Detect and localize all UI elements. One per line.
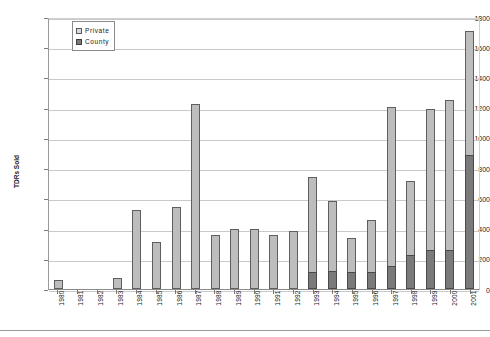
bar-segment-county-1998[interactable] bbox=[406, 255, 415, 289]
bar-stack-1985[interactable] bbox=[152, 242, 161, 289]
plot-area bbox=[48, 18, 480, 290]
bar-stack-1984[interactable] bbox=[132, 210, 141, 289]
bar-segment-private-1987[interactable] bbox=[191, 104, 200, 289]
bar-segment-private-1980[interactable] bbox=[54, 280, 63, 289]
x-label-holder-2001: 2001 bbox=[460, 296, 480, 328]
x-label-holder-1993: 1993 bbox=[303, 296, 323, 328]
bar-stack-1995[interactable] bbox=[347, 238, 356, 289]
bar-segment-private-1998[interactable] bbox=[406, 181, 415, 255]
bar-group-1989[interactable] bbox=[225, 19, 245, 289]
bar-group-1982[interactable] bbox=[88, 19, 108, 289]
bar-stack-1994[interactable] bbox=[328, 201, 337, 289]
bar-group-1992[interactable] bbox=[284, 19, 304, 289]
bar-segment-county-2000[interactable] bbox=[445, 250, 454, 289]
bar-group-1999[interactable] bbox=[420, 19, 440, 289]
bar-group-1998[interactable] bbox=[401, 19, 421, 289]
bar-group-1984[interactable] bbox=[127, 19, 147, 289]
x-axis-label-1986: 1986 bbox=[176, 290, 183, 305]
x-axis-label-1987: 1987 bbox=[195, 290, 202, 305]
bar-segment-private-1991[interactable] bbox=[269, 235, 278, 289]
x-axis-label-1996: 1996 bbox=[372, 290, 379, 305]
x-label-holder-1989: 1989 bbox=[225, 296, 245, 328]
bar-segment-county-2001[interactable] bbox=[465, 155, 474, 289]
x-label-holder-1996: 1996 bbox=[362, 296, 382, 328]
bar-group-1995[interactable] bbox=[342, 19, 362, 289]
bar-group-1994[interactable] bbox=[323, 19, 343, 289]
x-axis-label-1999: 1999 bbox=[431, 290, 438, 305]
bar-group-1987[interactable] bbox=[186, 19, 206, 289]
bar-stack-1983[interactable] bbox=[113, 278, 122, 289]
x-label-holder-1988: 1988 bbox=[205, 296, 225, 328]
bar-stack-1992[interactable] bbox=[289, 231, 298, 289]
bar-stack-1990[interactable] bbox=[250, 229, 259, 289]
x-label-holder-1992: 1992 bbox=[284, 296, 304, 328]
bar-segment-private-1993[interactable] bbox=[308, 177, 317, 271]
bar-stack-1986[interactable] bbox=[172, 207, 181, 289]
x-axis-label-1983: 1983 bbox=[117, 290, 124, 305]
bar-stack-1987[interactable] bbox=[191, 104, 200, 289]
bar-segment-private-1997[interactable] bbox=[387, 107, 396, 266]
bar-stack-1991[interactable] bbox=[269, 235, 278, 289]
bar-stack-1997[interactable] bbox=[387, 107, 396, 289]
bar-segment-county-1996[interactable] bbox=[367, 272, 376, 289]
bar-group-1988[interactable] bbox=[205, 19, 225, 289]
bar-segment-county-1994[interactable] bbox=[328, 271, 337, 289]
bar-segment-private-1984[interactable] bbox=[132, 210, 141, 289]
x-axis-label-1981: 1981 bbox=[77, 290, 84, 305]
bar-group-1986[interactable] bbox=[166, 19, 186, 289]
x-axis-label-1989: 1989 bbox=[235, 290, 242, 305]
bar-segment-private-1990[interactable] bbox=[250, 229, 259, 289]
bar-stack-1988[interactable] bbox=[211, 235, 220, 289]
x-label-holder-1987: 1987 bbox=[185, 296, 205, 328]
bar-segment-county-1999[interactable] bbox=[426, 250, 435, 289]
x-axis-label-1990: 1990 bbox=[254, 290, 261, 305]
bar-stack-2001[interactable] bbox=[465, 31, 474, 289]
bar-stack-1996[interactable] bbox=[367, 220, 376, 290]
bar-stack-1993[interactable] bbox=[308, 177, 317, 289]
x-label-holder-1984: 1984 bbox=[127, 296, 147, 328]
bar-group-1996[interactable] bbox=[362, 19, 382, 289]
bar-group-1983[interactable] bbox=[108, 19, 128, 289]
x-label-holder-1990: 1990 bbox=[244, 296, 264, 328]
bar-segment-private-1983[interactable] bbox=[113, 278, 122, 289]
x-axis-label-2001: 2001 bbox=[470, 290, 477, 305]
bar-segment-private-1995[interactable] bbox=[347, 238, 356, 272]
y-axis-title: TDRs Sold bbox=[13, 142, 20, 202]
bar-segment-private-1992[interactable] bbox=[289, 231, 298, 289]
x-axis-label-1980: 1980 bbox=[58, 290, 65, 305]
bar-segment-private-1994[interactable] bbox=[328, 201, 337, 271]
bar-group-1993[interactable] bbox=[303, 19, 323, 289]
bar-group-2000[interactable] bbox=[440, 19, 460, 289]
bar-segment-private-2001[interactable] bbox=[465, 31, 474, 155]
legend-item-county: County bbox=[76, 36, 109, 47]
bar-segment-county-1995[interactable] bbox=[347, 272, 356, 289]
bar-segment-private-1989[interactable] bbox=[230, 229, 239, 289]
x-axis-label-1993: 1993 bbox=[313, 290, 320, 305]
legend-item-private: Private bbox=[76, 25, 109, 36]
bar-segment-county-1993[interactable] bbox=[308, 272, 317, 289]
bar-segment-private-1986[interactable] bbox=[172, 207, 181, 289]
bar-group-1981[interactable] bbox=[69, 19, 89, 289]
bar-group-2001[interactable] bbox=[459, 19, 479, 289]
x-label-holder-1995: 1995 bbox=[343, 296, 363, 328]
x-axis-label-1995: 1995 bbox=[352, 290, 359, 305]
bar-group-1991[interactable] bbox=[264, 19, 284, 289]
bar-stack-1989[interactable] bbox=[230, 229, 239, 289]
bar-stack-1980[interactable] bbox=[54, 280, 63, 289]
bar-segment-county-1997[interactable] bbox=[387, 266, 396, 289]
legend-label-county: County bbox=[85, 38, 109, 45]
bar-stack-1998[interactable] bbox=[406, 181, 415, 289]
bar-segment-private-1996[interactable] bbox=[367, 220, 376, 272]
bar-group-1985[interactable] bbox=[147, 19, 167, 289]
bar-segment-private-1985[interactable] bbox=[152, 242, 161, 289]
x-axis-label-1991: 1991 bbox=[274, 290, 281, 305]
bar-group-1997[interactable] bbox=[381, 19, 401, 289]
bar-segment-private-1999[interactable] bbox=[426, 109, 435, 250]
bottom-divider bbox=[0, 330, 490, 331]
bar-stack-2000[interactable] bbox=[445, 100, 454, 289]
bar-group-1990[interactable] bbox=[244, 19, 264, 289]
bar-segment-private-2000[interactable] bbox=[445, 100, 454, 250]
bar-stack-1999[interactable] bbox=[426, 109, 435, 289]
bar-group-1980[interactable] bbox=[49, 19, 69, 289]
bar-segment-private-1988[interactable] bbox=[211, 235, 220, 289]
